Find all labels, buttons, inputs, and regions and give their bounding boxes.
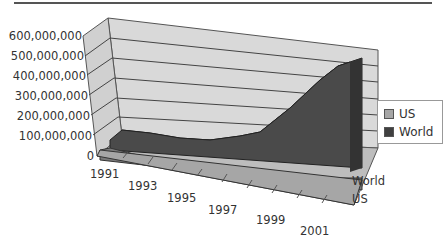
svg-text:1999: 1999 bbox=[256, 213, 285, 227]
svg-text:0: 0 bbox=[87, 149, 94, 163]
svg-text:200,000,000: 200,000,000 bbox=[17, 109, 90, 123]
legend-swatch-world bbox=[384, 127, 394, 137]
legend-swatch-us bbox=[384, 109, 394, 119]
series-world-side bbox=[350, 58, 362, 172]
svg-text:World: World bbox=[352, 174, 385, 188]
svg-text:500,000,000: 500,000,000 bbox=[11, 49, 84, 63]
y-axis-labels: 600,000,000 500,000,000 400,000,000 300,… bbox=[9, 29, 94, 163]
svg-text:US: US bbox=[352, 192, 368, 206]
legend-item-us: US bbox=[384, 107, 415, 121]
svg-text:2001: 2001 bbox=[300, 224, 329, 238]
legend-label-us: US bbox=[399, 107, 415, 121]
legend-item-world: World bbox=[384, 125, 433, 139]
svg-text:600,000,000: 600,000,000 bbox=[9, 29, 82, 43]
svg-text:400,000,000: 400,000,000 bbox=[13, 69, 86, 83]
legend-label-world: World bbox=[399, 125, 433, 139]
svg-text:1991: 1991 bbox=[90, 167, 119, 181]
svg-text:100,000,000: 100,000,000 bbox=[19, 129, 92, 143]
legend: US World bbox=[377, 100, 443, 144]
svg-text:1997: 1997 bbox=[208, 203, 237, 217]
svg-text:1995: 1995 bbox=[167, 191, 196, 205]
svg-text:300,000,000: 300,000,000 bbox=[15, 89, 88, 103]
svg-text:1993: 1993 bbox=[128, 179, 157, 193]
